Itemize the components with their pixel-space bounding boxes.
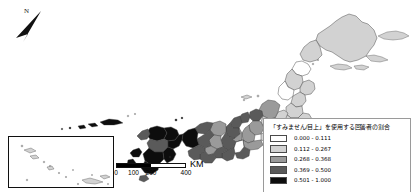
scale-tick-label: 0 bbox=[114, 169, 118, 177]
scale-segment bbox=[151, 164, 168, 167]
region-hokkaido bbox=[300, 14, 409, 70]
scale-segment bbox=[134, 164, 151, 167]
legend-item: 0.501 - 1.000 bbox=[270, 176, 405, 185]
scale-tick-label: 100 bbox=[128, 169, 139, 177]
north-arrow-icon bbox=[14, 8, 48, 50]
north-arrow-label: N bbox=[24, 8, 29, 15]
scale-tick-label: 400 bbox=[181, 169, 192, 177]
scale-segment bbox=[117, 164, 134, 167]
legend-item-label: 0.369 - 0.500 bbox=[294, 167, 331, 174]
region-tohoku bbox=[278, 61, 315, 118]
legend-swatch bbox=[270, 145, 287, 153]
legend-swatch bbox=[270, 166, 287, 174]
legend-swatch bbox=[270, 156, 287, 164]
scale-bar: 0 100 200 400 KM bbox=[116, 163, 202, 179]
legend-item: 0.000 - 0.111 bbox=[270, 134, 405, 143]
legend-item: 0.268 - 0.368 bbox=[270, 155, 405, 164]
scale-bar-unit-label: KM bbox=[190, 160, 204, 169]
legend-item-label: 0.000 - 0.111 bbox=[294, 135, 331, 142]
scale-bar-track bbox=[116, 163, 186, 168]
region-chugoku bbox=[182, 121, 226, 149]
map-legend: 「すみません/目上」を使用する回答者の割合 0.000 - 0.111 0.11… bbox=[263, 118, 411, 192]
legend-swatch bbox=[270, 177, 287, 185]
legend-item-label: 0.501 - 1.000 bbox=[294, 177, 331, 184]
legend-item-label: 0.112 - 0.267 bbox=[294, 146, 331, 153]
legend-item: 0.369 - 0.500 bbox=[270, 166, 405, 175]
legend-item: 0.112 - 0.267 bbox=[270, 145, 405, 154]
north-arrow bbox=[14, 8, 48, 50]
legend-swatch bbox=[270, 135, 287, 143]
scale-segment bbox=[168, 164, 185, 167]
nansei-islands-inset bbox=[8, 136, 114, 188]
scale-tick-label: 200 bbox=[146, 169, 157, 177]
japan-choropleth-map: .pref { stroke:#3f3f3f; stroke-width:0.4… bbox=[0, 0, 417, 192]
legend-title: 「すみません/目上」を使用する回答者の割合 bbox=[270, 123, 405, 131]
scale-bar-ticks: 0 100 200 400 bbox=[116, 169, 202, 179]
legend-item-label: 0.268 - 0.368 bbox=[294, 156, 331, 163]
